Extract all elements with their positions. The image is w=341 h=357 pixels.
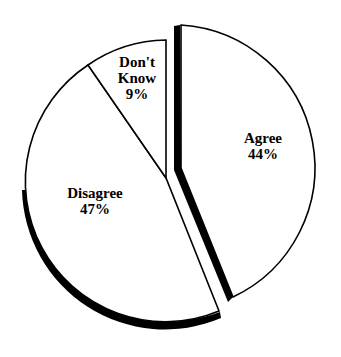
label-disagree: Disagree 47%: [55, 185, 135, 217]
label-dont-know-line2: Know: [112, 70, 162, 86]
label-agree-pct: 44%: [228, 146, 298, 162]
label-dont-know: Don't Know 9%: [112, 54, 162, 102]
label-agree-name: Agree: [228, 130, 298, 146]
label-dont-know-pct: 9%: [112, 86, 162, 102]
label-agree: Agree 44%: [228, 130, 298, 162]
pie-chart: Agree 44% Disagree 47% Don't Know 9%: [0, 0, 341, 357]
pie-svg: [0, 0, 341, 357]
label-dont-know-line1: Don't: [112, 54, 162, 70]
label-disagree-name: Disagree: [55, 185, 135, 201]
label-disagree-pct: 47%: [55, 201, 135, 217]
